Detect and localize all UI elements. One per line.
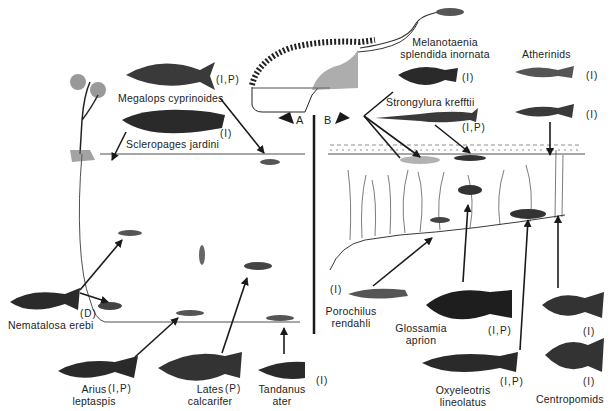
diet-tag-lates: (P) [225, 383, 241, 395]
diet-tag-scleropages: (I) [220, 128, 232, 140]
diet-tag-tandanus: (I) [316, 375, 328, 387]
diet-tag-atherinids-2: (I) [586, 109, 598, 121]
species-label-scleropages: Scleropages jardini [126, 138, 219, 150]
right-habitat [328, 145, 585, 270]
diet-tag-atherinids-1: (I) [586, 70, 598, 82]
diet-tag-megalops: (I,P) [216, 74, 240, 86]
species-label-porochilus: Porochilus rendahli [318, 305, 384, 329]
panel-label-a: A [296, 114, 303, 126]
species-label-oxyeleotris: Oxyeleotris lineolatus [428, 384, 498, 408]
diet-tag-nematalosa: (D) [80, 308, 97, 320]
species-label-glossamia: Glossamia aprion [388, 322, 454, 346]
species-label-atherinids: Atherinids [522, 48, 571, 60]
species-label-centropomids: Centropomids [536, 393, 604, 405]
species-label-megalops: Megalops cyprinoides [118, 92, 224, 104]
diet-tag-oxyeleotris: (I,P) [500, 376, 524, 388]
species-label-melanotaenia: Melanotaenia splendida inornata [395, 36, 495, 60]
diet-tag-glossamia: (I,P) [488, 325, 512, 337]
diet-tag-melanotaenia: (I) [462, 72, 474, 84]
panel-label-b: B [324, 114, 331, 126]
habitat-diagram [0, 0, 611, 411]
fish-illustrations [10, 62, 604, 381]
diet-tag-strongylura: (I,P) [462, 122, 486, 134]
species-label-tandanus: Tandanus ater [252, 383, 312, 407]
species-label-strongylura: Strongylura krefftii [386, 96, 474, 108]
species-label-nematalosa: Nematalosa erebi [8, 319, 94, 331]
diet-tag-centropomids-2: (I) [583, 376, 595, 388]
diet-tag-centropomids-1: (I) [583, 326, 595, 338]
diet-tag-arius: (I,P) [108, 383, 132, 395]
diet-tag-porochilus: (I) [330, 284, 342, 296]
